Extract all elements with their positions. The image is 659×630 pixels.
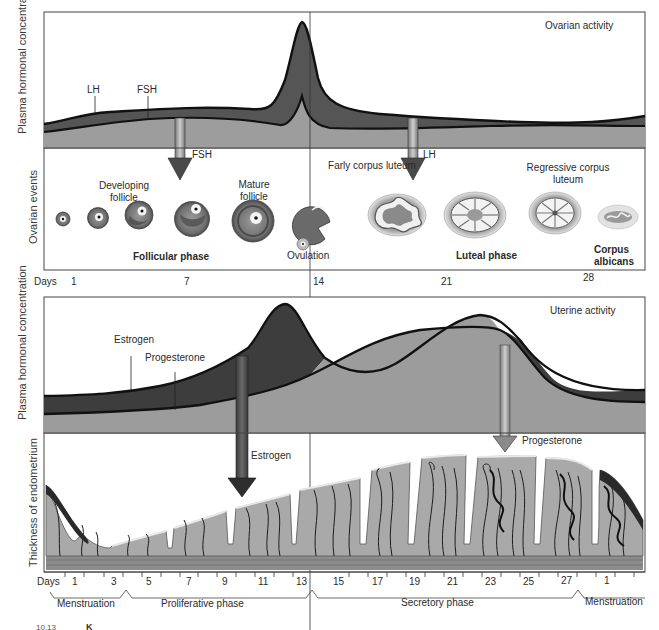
ovarian-day-7: 7	[184, 276, 190, 287]
ovarian-days-label: Days	[34, 276, 57, 287]
mature-follicle-label: Mature follicle	[229, 179, 279, 203]
days-axis	[44, 572, 645, 577]
ovarian-day-14: 14	[313, 276, 324, 287]
menstruation-next-phase-label: Menstruation	[585, 596, 643, 608]
follicular-phase-label: Follicular phase	[133, 251, 209, 263]
uterine-activity-title: Uterine activity	[550, 305, 616, 317]
uterine-plasma-axis-label: Plasma hormonal concentration	[16, 300, 28, 420]
endometrium-panel	[44, 433, 645, 572]
estrogen-label: Estrogen	[114, 334, 154, 346]
uterine-day-19: 19	[409, 576, 420, 587]
corpus-albicans-label: Corpus albicans	[594, 244, 640, 268]
ovarian-day-28: 28	[583, 272, 594, 283]
uterine-day-9: 9	[222, 576, 228, 587]
uterine-day-11: 11	[258, 576, 268, 587]
uterine-day-21: 21	[447, 576, 458, 587]
uterine-day-1: 1	[72, 576, 78, 587]
follicle-stage-1	[56, 212, 70, 226]
follicle-mature	[232, 200, 274, 242]
uterine-day-3: 3	[111, 576, 117, 587]
endometrium-thickness-axis-label: Thickness of endometrium	[27, 435, 39, 570]
estrogen-arrow-label: Estrogen	[251, 450, 291, 462]
corpus-luteum	[444, 192, 506, 238]
follicle-stage-3	[125, 201, 153, 229]
corpus-albicans	[598, 205, 638, 229]
regressive-corpus-luteum	[529, 192, 581, 234]
uterine-day-25: 25	[523, 576, 534, 587]
ovarian-activity-title: Ovarian activity	[545, 20, 613, 32]
uterine-day-15: 15	[333, 576, 344, 587]
uterine-day-7: 7	[186, 576, 192, 587]
fsh-label: FSH	[137, 84, 157, 96]
ovulation-label: Ovulation	[287, 250, 329, 262]
uterine-day-23: 23	[485, 576, 496, 587]
caption-fragment: K	[86, 621, 93, 630]
uterine-day-27: 27	[561, 575, 572, 586]
phase-brackets	[50, 590, 645, 598]
developing-follicle-label: Developing follicle	[89, 180, 159, 204]
secretory-phase-label: Secretory phase	[401, 597, 474, 609]
regressive-corpus-luteum-label: Regressive corpus luteum	[518, 162, 618, 186]
lh-label: LH	[87, 84, 100, 96]
uterine-day-17: 17	[372, 576, 383, 587]
ovulation-follicle	[292, 207, 330, 250]
luteal-phase-label: Luteal phase	[456, 250, 517, 262]
uterine-days-label: Days	[37, 576, 60, 587]
proliferative-phase-label: Proliferative phase	[161, 598, 244, 610]
uterine-day-5: 5	[146, 576, 152, 587]
follicle-stage-2	[88, 208, 109, 229]
figure-number-fragment: 10.13	[36, 622, 56, 630]
uterine-hormone-chart	[44, 297, 645, 433]
progesterone-label: Progesterone	[145, 352, 205, 364]
ovarian-day-21: 21	[441, 276, 452, 287]
lh-arrow-label: LH	[423, 149, 436, 161]
follicle-stage-4	[175, 202, 210, 237]
ovarian-plasma-axis-label: Plasma hormonal concentration	[16, 14, 28, 134]
fsh-arrow-label: FSH	[192, 149, 212, 161]
early-corpus-luteum	[368, 194, 426, 236]
ovarian-events-axis-label: Ovarian events	[27, 162, 39, 252]
menstruation-phase-label: Menstruation	[57, 598, 115, 610]
uterine-day-13: 13	[296, 576, 307, 587]
progesterone-arrow-label: Progesterone	[522, 435, 582, 447]
ovarian-day-1: 1	[71, 276, 77, 287]
uterine-day-1-next: 1	[604, 575, 610, 586]
early-corpus-luteum-label: Farly corpus luteum	[327, 160, 417, 172]
